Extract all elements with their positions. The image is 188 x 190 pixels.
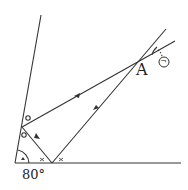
diagram-canvas	[0, 0, 188, 190]
circle-marker-lower	[22, 133, 26, 137]
left-ray	[15, 15, 41, 163]
arrow-angle	[21, 157, 25, 160]
circle-marker-upper	[26, 116, 30, 120]
line-pq	[22, 127, 52, 163]
line-qa	[52, 29, 166, 163]
angle-80-label: 80°	[22, 167, 45, 182]
marked-angle-symbol: ¬	[160, 56, 167, 65]
arrow-pq	[34, 133, 40, 139]
geometry-diagram: A 80° ¬	[0, 0, 188, 190]
point-a-label: A	[136, 60, 148, 79]
angle-arc-80	[18, 150, 29, 163]
